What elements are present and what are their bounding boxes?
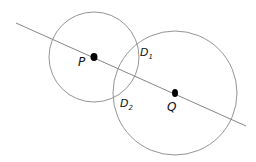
point-Q-dot [172,89,178,97]
label-P: P [78,55,86,69]
label-Q: Q [167,100,176,114]
point-P-dot [91,53,98,61]
diagram-svg: P Q D1 D2 [0,0,256,162]
label-D1: D1 [140,46,153,61]
label-D2: D2 [120,97,133,112]
geometry-diagram: P Q D1 D2 [0,0,256,162]
